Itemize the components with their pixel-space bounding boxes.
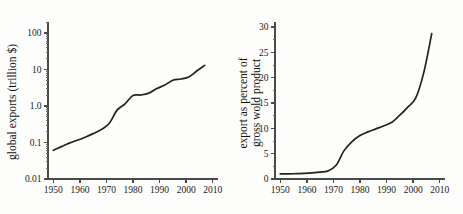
x-tick-label: 1980 [351,185,370,195]
x-tick-label: 2000 [177,185,196,195]
exports-percent-gwp-plot: 0510152025301950196019701980199020002010… [232,0,463,214]
y-tick-label: 0.1 [30,138,42,148]
global-exports-plot: 0.010.11.0101001950196019701980199020002… [0,0,232,214]
y-tick-label: 10 [32,65,42,75]
y-axis-title: global exports (trillion $) [6,44,19,160]
y-tick-label: 5 [264,149,269,159]
x-tick-label: 1970 [324,185,343,195]
y-tick-label: 0 [264,174,269,184]
data-series-line [280,34,431,174]
x-tick-label: 1960 [70,185,89,195]
x-tick-label: 1960 [297,185,316,195]
y-tick-label: 30 [259,22,269,32]
y-tick-label: 0.01 [25,174,42,184]
y-tick-label: 1.0 [30,101,42,111]
chart-panel-exports-percent-gwp: 0510152025301950196019701980199020002010… [232,0,463,214]
y-axis-title: export as percent ofgross wold product [237,57,263,148]
x-tick-label: 1950 [44,185,63,195]
y-tick-label: 25 [259,48,269,58]
figure-container: 0.010.11.0101001950196019701980199020002… [0,0,463,214]
x-tick-label: 2010 [203,185,222,195]
y-tick-label: 100 [27,28,42,38]
x-tick-label: 1990 [377,185,396,195]
data-series-line [53,65,204,150]
x-tick-label: 2000 [404,185,423,195]
x-tick-label: 1970 [97,185,116,195]
x-tick-label: 1980 [124,185,143,195]
x-tick-label: 1990 [150,185,169,195]
x-tick-label: 2010 [430,185,449,195]
chart-panel-global-exports: 0.010.11.0101001950196019701980199020002… [0,0,232,214]
x-tick-label: 1950 [271,185,290,195]
